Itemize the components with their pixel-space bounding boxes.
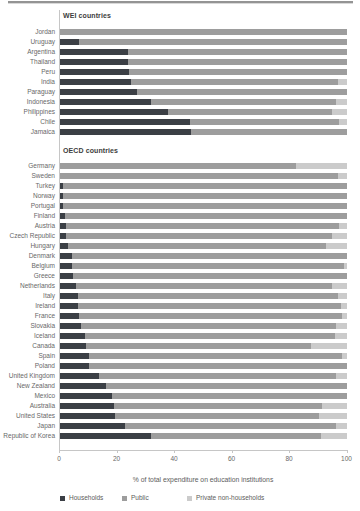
- bar-segment-public: [59, 173, 338, 179]
- country-label: Italy: [0, 292, 55, 300]
- country-label: Canada: [0, 342, 55, 350]
- bar-row: [59, 373, 347, 379]
- bar-segment-private-non-households: [332, 283, 346, 289]
- bar-segment-households: [59, 89, 137, 95]
- country-label: Australia: [0, 402, 55, 410]
- bar-segment-public: [191, 129, 346, 135]
- bar-row: [59, 343, 347, 349]
- bar-segment-households: [59, 393, 112, 399]
- bar-row: [59, 203, 347, 209]
- bar-row: [59, 163, 347, 169]
- x-axis-tick: [59, 450, 60, 453]
- bar-segment-households: [59, 129, 191, 135]
- bar-segment-private-non-households: [319, 413, 346, 419]
- bar-segment-public: [76, 283, 332, 289]
- bar-segment-households: [59, 433, 151, 439]
- x-axis-line: [59, 450, 348, 451]
- bar-segment-households: [59, 383, 106, 389]
- bar-segment-households: [59, 423, 125, 429]
- legend-swatch-public: [122, 496, 127, 501]
- bar-segment-public: [168, 109, 332, 115]
- x-axis-tick-label: 20: [106, 455, 128, 463]
- bar-row: [59, 303, 347, 309]
- bar-segment-households: [59, 283, 76, 289]
- bar-segment-public: [59, 29, 347, 35]
- country-label: Chile: [0, 118, 55, 126]
- country-label: Spain: [0, 352, 55, 360]
- bar-segment-households: [59, 99, 151, 105]
- bar-segment-public: [129, 69, 346, 75]
- country-label: Belgium: [0, 262, 55, 270]
- bar-row: [59, 59, 347, 65]
- x-axis-tick-label: 80: [278, 455, 300, 463]
- country-label: Ireland: [0, 302, 55, 310]
- x-axis-tick: [117, 450, 118, 453]
- bar-row: [59, 49, 347, 55]
- bar-segment-private-non-households: [339, 223, 346, 229]
- bar-segment-public: [151, 433, 321, 439]
- legend-swatch-households: [60, 496, 65, 501]
- bar-segment-public: [66, 223, 339, 229]
- country-label: Norway: [0, 192, 55, 200]
- bar-segment-private-non-households: [332, 233, 346, 239]
- bar-segment-private-non-households: [311, 343, 347, 349]
- bar-segment-households: [59, 119, 190, 125]
- bar-row: [59, 403, 347, 409]
- bar-row: [59, 433, 347, 439]
- bar-segment-households: [59, 69, 129, 75]
- bar-segment-private-non-households: [342, 313, 346, 319]
- legend-item-public: Public: [122, 494, 149, 502]
- country-label: Mexico: [0, 392, 55, 400]
- bar-segment-private-non-households: [326, 243, 346, 249]
- bar-segment-private-non-households: [339, 119, 346, 125]
- x-axis-tick: [347, 450, 348, 453]
- bar-segment-households: [59, 343, 86, 349]
- bar-segment-households: [59, 109, 168, 115]
- bar-row: [59, 253, 347, 259]
- bar-segment-public: [81, 323, 337, 329]
- country-label: Iceland: [0, 332, 55, 340]
- bar-row: [59, 109, 347, 115]
- country-label: France: [0, 312, 55, 320]
- bar-row: [59, 223, 347, 229]
- bar-segment-public: [78, 303, 341, 309]
- bar-segment-public: [85, 333, 335, 339]
- bar-segment-private-non-households: [336, 323, 346, 329]
- bar-segment-public: [131, 79, 338, 85]
- bar-segment-public: [79, 313, 342, 319]
- bar-segment-private-non-households: [322, 403, 346, 409]
- x-axis-tick-label: 60: [221, 455, 243, 463]
- bar-row: [59, 413, 347, 419]
- bar-segment-public: [114, 403, 322, 409]
- bar-segment-public: [137, 89, 347, 95]
- country-label: Jamaica: [0, 128, 55, 136]
- bar-row: [59, 383, 347, 389]
- bar-row: [59, 233, 347, 239]
- country-label: Austria: [0, 222, 55, 230]
- bar-segment-households: [59, 39, 79, 45]
- bar-segment-households: [59, 243, 68, 249]
- country-label: Uruguay: [0, 38, 55, 46]
- x-axis-tick: [232, 450, 233, 453]
- bar-segment-private-non-households: [332, 109, 346, 115]
- bar-segment-public: [106, 383, 346, 389]
- bar-segment-households: [59, 293, 78, 299]
- bar-segment-households: [59, 323, 81, 329]
- bar-row: [59, 243, 347, 249]
- country-label: Japan: [0, 422, 55, 430]
- bar-segment-public: [190, 119, 340, 125]
- bar-row: [59, 99, 347, 105]
- bar-row: [59, 323, 347, 329]
- x-axis-tick: [289, 450, 290, 453]
- bar-segment-public: [99, 373, 336, 379]
- bar-row: [59, 423, 347, 429]
- country-label: India: [0, 78, 55, 86]
- bar-segment-public: [66, 233, 332, 239]
- country-label: Peru: [0, 68, 55, 76]
- legend-swatch-private-non-households: [187, 496, 192, 501]
- bar-segment-private-non-households: [335, 333, 347, 339]
- bar-segment-private-non-households: [341, 303, 347, 309]
- bar-segment-private-non-households: [336, 99, 346, 105]
- bar-segment-households: [59, 49, 128, 55]
- bar-segment-public: [89, 353, 342, 359]
